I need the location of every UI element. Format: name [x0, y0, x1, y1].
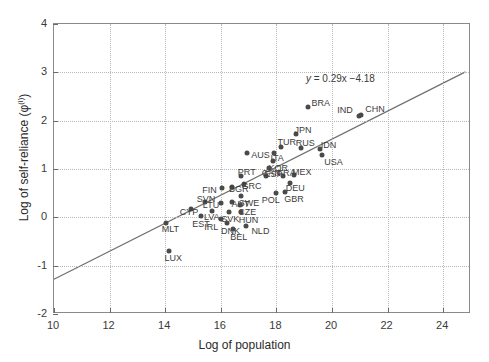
point-label-pol: POL	[262, 196, 280, 205]
data-point-bra	[305, 105, 310, 110]
y-axis-tick	[53, 217, 58, 218]
point-label-nld: NLD	[251, 227, 269, 236]
regression-equation-annotation: y = 0.29x −4.18	[306, 73, 375, 84]
y-gridline	[54, 121, 469, 122]
point-label-hun: HUN	[239, 216, 259, 225]
point-label-idn: IDN	[321, 141, 337, 150]
point-label-irl: IRL	[204, 223, 218, 232]
data-point-irl	[219, 217, 224, 222]
x-axis-tick-label: 10	[47, 319, 59, 331]
point-label-cyp: CYP	[180, 208, 199, 217]
x-axis-tick-label: 20	[325, 319, 337, 331]
x-axis-tick	[110, 308, 111, 313]
x-axis-tick	[165, 308, 166, 313]
y-axis-tick-label: -1	[21, 259, 47, 271]
point-label-chn: CHN	[365, 105, 385, 114]
x-axis-tick	[54, 308, 55, 313]
data-point-ind	[357, 113, 362, 118]
y-axis-tick-label: -2	[21, 307, 47, 319]
point-label-can: CAN	[262, 169, 281, 178]
point-label-prt: PRT	[238, 168, 256, 177]
point-label-rus: RUS	[296, 139, 315, 148]
x-gridline	[388, 24, 389, 312]
x-axis-tick	[276, 308, 277, 313]
x-axis-tick-label: 16	[214, 319, 226, 331]
x-gridline	[110, 24, 111, 312]
y-axis-tick-label: 3	[21, 65, 47, 77]
point-label-bra: BRA	[312, 99, 331, 108]
y-axis-tick	[53, 24, 58, 25]
data-point-aus	[245, 151, 250, 156]
point-label-jpn: JPN	[294, 126, 311, 135]
data-point-hun	[238, 209, 243, 214]
point-label-tur: TUR	[277, 138, 296, 147]
y-axis-tick	[53, 314, 58, 315]
plot-area: CHNINDBRAUSAIDNRUSJPNTURITAAUSKORESPMEXF…	[53, 23, 470, 313]
x-gridline	[165, 24, 166, 312]
point-label-gbr: GBR	[284, 195, 304, 204]
x-axis-tick-label: 24	[436, 319, 448, 331]
point-label-usa: USA	[324, 158, 343, 167]
x-axis-tick-label: 18	[269, 319, 281, 331]
y-axis-tick-label: 4	[21, 17, 47, 29]
y-axis-tick-label: 2	[21, 114, 47, 126]
point-label-mlt: MLT	[162, 225, 179, 234]
point-label-aus: AUS	[251, 151, 270, 160]
point-label-lux: LUX	[165, 254, 183, 263]
y-gridline	[54, 217, 469, 218]
data-point-bel	[231, 226, 236, 231]
data-point-est	[199, 214, 204, 219]
y-axis-label: Log of self-reliance (φ(i))	[16, 18, 31, 298]
x-axis-tick	[332, 308, 333, 313]
x-axis-tick-label: 22	[380, 319, 392, 331]
y-axis-tick-label: 1	[21, 162, 47, 174]
scatter-plot-figure: CHNINDBRAUSAIDNRUSJPNTURITAAUSKORESPMEXF…	[0, 0, 489, 362]
y-gridline	[54, 266, 469, 267]
point-label-svn: SVN	[197, 195, 216, 204]
x-axis-tick	[443, 308, 444, 313]
point-label-ind: IND	[337, 106, 353, 115]
y-axis-tick	[53, 266, 58, 267]
x-axis-tick	[388, 308, 389, 313]
point-label-deu: DEU	[286, 184, 305, 193]
x-axis-tick-label: 12	[102, 319, 114, 331]
x-axis-tick	[221, 308, 222, 313]
x-axis-label: Log of population	[0, 338, 489, 352]
y-axis-tick	[53, 72, 58, 73]
y-gridline	[54, 72, 469, 73]
y-axis-tick	[53, 169, 58, 170]
y-axis-tick-label: 0	[21, 210, 47, 222]
data-point-fin	[220, 186, 225, 191]
point-label-bel: BEL	[230, 233, 247, 242]
y-axis-tick	[53, 121, 58, 122]
x-gridline	[221, 24, 222, 312]
data-point-dnk	[224, 221, 229, 226]
data-point-nld	[244, 224, 249, 229]
x-axis-tick-label: 14	[158, 319, 170, 331]
x-gridline	[332, 24, 333, 312]
x-gridline	[443, 24, 444, 312]
